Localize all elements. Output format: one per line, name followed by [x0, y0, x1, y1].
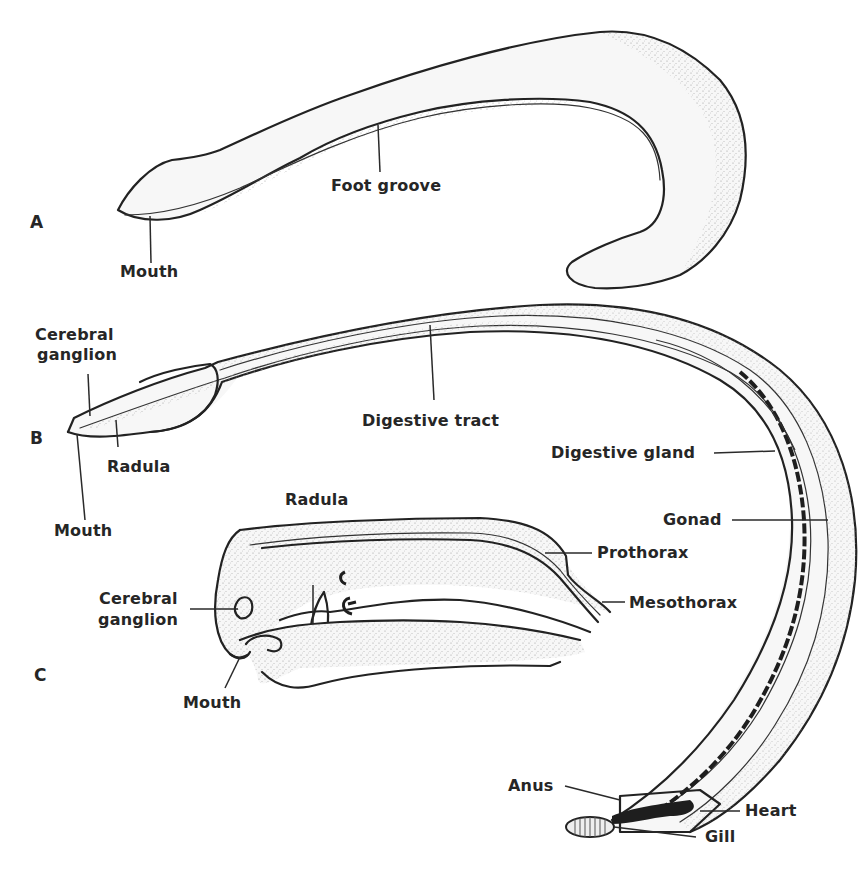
anatomy-diagram [0, 0, 863, 875]
label-b-radula: Radula [107, 457, 170, 476]
label-a-mouth: Mouth [120, 262, 178, 281]
label-gonad: Gonad [663, 510, 722, 529]
label-digestive-gland: Digestive gland [551, 443, 695, 462]
label-digestive-tract: Digestive tract [362, 411, 499, 430]
panel-label-a: A [30, 212, 43, 232]
panel-a-body [118, 32, 746, 289]
label-c-cerebral-2: ganglion [98, 610, 178, 629]
label-heart: Heart [745, 801, 797, 820]
label-foot-groove: Foot groove [331, 176, 441, 195]
label-b-mouth: Mouth [54, 521, 112, 540]
label-b-cerebral-2: ganglion [37, 345, 117, 364]
label-mesothorax: Mesothorax [629, 593, 737, 612]
label-c-radula: Radula [285, 490, 348, 509]
label-prothorax: Prothorax [597, 543, 688, 562]
panel-label-b: B [30, 428, 43, 448]
label-anus: Anus [508, 776, 554, 795]
label-c-cerebral-1: Cerebral [99, 589, 178, 608]
label-b-cerebral-1: Cerebral [35, 325, 114, 344]
label-gill: Gill [705, 827, 735, 846]
panel-c-body [215, 518, 610, 688]
label-c-mouth: Mouth [183, 693, 241, 712]
panel-label-c: C [34, 665, 46, 685]
